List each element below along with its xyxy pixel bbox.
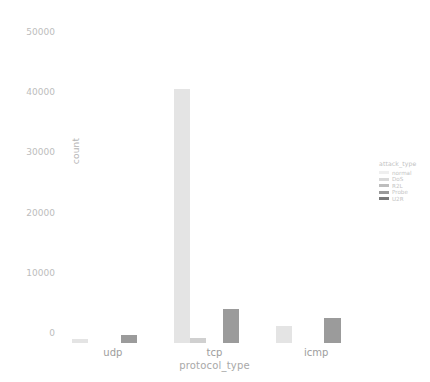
legend-title: attack_type bbox=[379, 160, 429, 167]
legend-swatch bbox=[379, 191, 389, 194]
x-axis-label: protocol_type bbox=[179, 360, 250, 371]
y-tick-label: 40000 bbox=[26, 87, 55, 97]
legend-swatch bbox=[379, 178, 389, 181]
y-tick-label: 0 bbox=[49, 328, 55, 338]
legend-entry: U2R bbox=[379, 196, 429, 202]
y-axis-label: count bbox=[71, 101, 81, 201]
x-tick-label: udp bbox=[103, 347, 122, 358]
y-tick-label: 50000 bbox=[26, 27, 55, 37]
legend-entry: Probe bbox=[379, 189, 429, 195]
x-tick-label: icmp bbox=[304, 347, 328, 358]
chart-figure: count 01000020000300004000050000 udptcpi… bbox=[0, 0, 430, 382]
y-tick-label: 20000 bbox=[26, 208, 55, 218]
bar bbox=[190, 338, 206, 343]
bar bbox=[72, 339, 88, 343]
bar bbox=[276, 326, 292, 343]
legend-swatch bbox=[379, 197, 389, 200]
legend: attack_type normalDoSR2LProbeU2R bbox=[379, 160, 429, 202]
bar bbox=[223, 309, 239, 343]
x-tick-label: tcp bbox=[207, 347, 223, 358]
legend-label: U2R bbox=[392, 196, 404, 202]
legend-label: Probe bbox=[392, 189, 408, 195]
y-tick-label: 10000 bbox=[26, 268, 55, 278]
legend-label: R2L bbox=[392, 183, 403, 189]
y-tick-label: 30000 bbox=[26, 147, 55, 157]
legend-label: normal bbox=[392, 170, 412, 176]
bar bbox=[174, 89, 190, 343]
legend-entry: R2L bbox=[379, 183, 429, 189]
bar bbox=[121, 335, 137, 343]
legend-entry: normal bbox=[379, 170, 429, 176]
legend-swatch bbox=[379, 184, 389, 187]
legend-label: DoS bbox=[392, 176, 403, 182]
legend-entries: normalDoSR2LProbeU2R bbox=[379, 170, 429, 202]
legend-swatch bbox=[379, 171, 389, 174]
legend-entry: DoS bbox=[379, 176, 429, 182]
plot-area: count 01000020000300004000050000 udptcpi… bbox=[62, 18, 367, 343]
bar bbox=[324, 318, 340, 343]
